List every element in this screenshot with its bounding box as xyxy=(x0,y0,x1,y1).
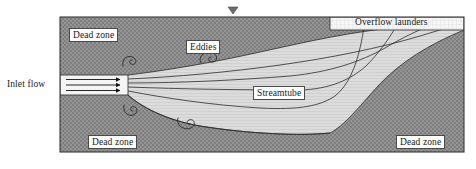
water-level-marker-icon xyxy=(228,7,238,14)
label-dead-zone-top: Dead zone xyxy=(69,28,118,42)
label-dead-zone-bottom-right: Dead zone xyxy=(396,135,445,149)
label-inlet-flow: Inlet flow xyxy=(7,79,45,90)
label-eddies: Eddies xyxy=(186,40,220,54)
sedimentation-tank-diagram: Dead zone Eddies Overflow launders Inlet… xyxy=(0,0,476,169)
label-dead-zone-bottom-left: Dead zone xyxy=(88,135,137,149)
label-overflow-launders: Overflow launders xyxy=(355,17,428,28)
label-streamtube: Streamtube xyxy=(253,86,305,100)
